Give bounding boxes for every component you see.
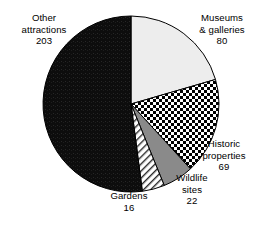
slice-label-value: 22 xyxy=(161,195,223,207)
slice-label-value: 203 xyxy=(2,35,86,47)
slice-label-line-2: properties xyxy=(190,150,258,162)
slice-label-line-1: Gardens xyxy=(98,190,160,202)
slice-label-historic-properties: Historic properties 69 xyxy=(190,138,258,173)
pie-chart: Other attractions 203 Museums & gallerie… xyxy=(0,0,259,236)
slice-label-line-2: & galleries xyxy=(186,24,258,36)
slice-label-museums-galleries: Museums & galleries 80 xyxy=(186,12,258,47)
slice-label-line-2: attractions xyxy=(2,24,86,36)
slice-label-value: 80 xyxy=(186,35,258,47)
slice-label-wildlife-sites: Wildlife sites 22 xyxy=(161,172,223,207)
slice-label-value: 16 xyxy=(98,202,160,214)
slice-label-line-1: Wildlife xyxy=(161,172,223,184)
slice-label-gardens: Gardens 16 xyxy=(98,190,160,213)
slice-label-line-1: Museums xyxy=(186,12,258,24)
slice-label-other-attractions: Other attractions 203 xyxy=(2,12,86,47)
slice-label-line-1: Historic xyxy=(190,138,258,150)
slice-label-line-1: Other xyxy=(2,12,86,24)
slice-label-line-2: sites xyxy=(161,184,223,196)
